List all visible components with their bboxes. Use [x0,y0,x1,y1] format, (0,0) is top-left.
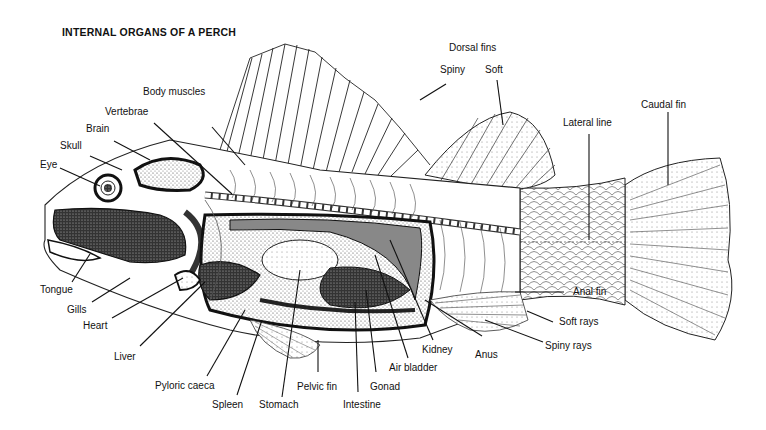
label-pyloric-caeca: Pyloric caeca [155,380,214,391]
perch-illustration [0,0,766,430]
eye-shape [95,175,121,201]
label-stomach: Stomach [259,399,298,410]
brain-shape [135,159,203,191]
soft-dorsal-fin [425,112,555,190]
label-lateral-line: Lateral line [563,117,612,128]
perch-anatomy-diagram: INTERNAL ORGANS OF A PERCH Body muscles … [0,0,766,430]
label-gonad: Gonad [370,381,400,392]
label-brain: Brain [86,123,109,134]
label-caudal-fin: Caudal fin [641,99,686,110]
label-spiny-rays: Spiny rays [545,340,592,351]
label-soft: Soft [485,64,503,75]
label-anal-fin: Anal fin [573,286,606,297]
label-eye: Eye [40,159,57,170]
caudal-fin [625,158,732,340]
label-kidney: Kidney [422,344,453,355]
label-body-muscles: Body muscles [143,86,205,97]
label-gills: Gills [67,304,86,315]
label-dorsal-fins: Dorsal fins [449,42,496,53]
label-intestine: Intestine [343,399,381,410]
label-pelvic-fin: Pelvic fin [297,381,337,392]
label-spleen: Spleen [212,399,243,410]
label-skull: Skull [60,140,82,151]
label-soft-rays: Soft rays [559,316,598,327]
label-liver: Liver [114,351,136,362]
label-anus: Anus [475,349,498,360]
label-air-bladder: Air bladder [389,362,437,373]
label-vertebrae: Vertebrae [105,106,148,117]
diagram-title: INTERNAL ORGANS OF A PERCH [62,26,236,38]
label-tongue: Tongue [40,284,73,295]
label-heart: Heart [83,320,107,331]
label-spiny: Spiny [440,64,465,75]
